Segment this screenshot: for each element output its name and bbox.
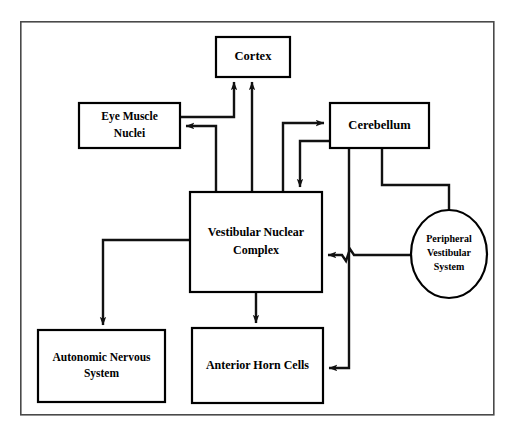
node-anterior-horn-cells[interactable]: Anterior Horn Cells <box>192 328 323 403</box>
edge-cerebellum-to-peripheral-vestibular-system <box>382 148 449 210</box>
node-vestibular-nuclear-complex[interactable]: Vestibular NuclearComplex <box>190 192 322 292</box>
diagram-root: CortexEye MuscleNucleiCerebellumVestibul… <box>0 0 514 437</box>
nodes-layer: CortexEye MuscleNucleiCerebellumVestibul… <box>38 37 487 403</box>
edge-cerebellum-to-vnc <box>300 141 330 187</box>
edge-eye-muscle-nuclei-to-cortex <box>180 82 234 117</box>
edge-vnc-to-autonomic-nervous-system <box>103 240 190 325</box>
node-label-cortex: Cortex <box>235 49 273 63</box>
node-peripheral-vestibular-system[interactable]: PeripheralVestibularSystem <box>411 210 487 298</box>
edge-vnc-to-cerebellum <box>283 123 324 192</box>
node-autonomic-nervous-system[interactable]: Autonomic NervousSystem <box>38 330 165 402</box>
node-eye-muscle-nuclei[interactable]: Eye MuscleNuclei <box>79 103 180 148</box>
diagram-canvas: CortexEye MuscleNucleiCerebellumVestibul… <box>0 0 514 437</box>
edge-vnc-to-eye-muscle-nuclei <box>186 126 216 192</box>
edge-peripheral-vestibular-system-to-vnc <box>328 249 411 261</box>
node-cerebellum[interactable]: Cerebellum <box>330 103 429 148</box>
node-label-cerebellum: Cerebellum <box>348 117 411 131</box>
node-cortex[interactable]: Cortex <box>216 37 290 77</box>
node-label-anterior-horn-cells: Anterior Horn Cells <box>206 357 309 371</box>
